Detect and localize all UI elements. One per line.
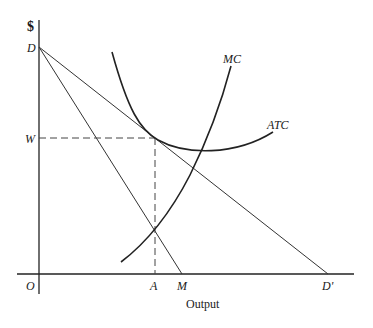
atc-curve-label: ATC <box>267 119 289 131</box>
origin-label: O <box>26 280 35 292</box>
point-label-w: W <box>25 133 35 145</box>
marginal-revenue-line <box>39 47 182 274</box>
point-label-d: D <box>27 42 36 54</box>
demand-line <box>39 47 328 274</box>
atc-curve <box>112 52 273 151</box>
point-label-m: M <box>177 280 187 292</box>
x-axis-label: Output <box>186 298 219 310</box>
y-axis-label: $ <box>27 20 34 34</box>
point-label-d-prime: D' <box>322 280 333 292</box>
point-label-a: A <box>150 280 157 292</box>
mc-curve-label: MC <box>223 53 241 65</box>
mc-curve <box>121 66 231 262</box>
